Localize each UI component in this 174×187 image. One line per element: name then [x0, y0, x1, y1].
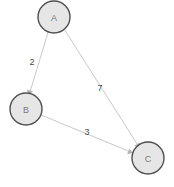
node-b[interactable]: B	[10, 93, 42, 125]
node-a-label: A	[51, 13, 57, 23]
edge-b-to-c-weight: 3	[84, 127, 89, 137]
edge-a-to-c-weight: 7	[97, 83, 102, 93]
node-b-label: B	[23, 105, 29, 115]
edge-layer: 2 7 3	[27, 29, 140, 154]
graph-diagram: 2 7 3 A B C	[0, 0, 174, 187]
edge-b-to-c: 3	[41, 115, 133, 154]
node-layer: A B C	[10, 1, 164, 174]
node-c[interactable]: C	[132, 142, 164, 174]
node-a[interactable]: A	[38, 1, 70, 33]
node-c-label: C	[145, 154, 152, 164]
edge-a-to-b-weight: 2	[29, 57, 34, 67]
edge-a-to-c: 7	[64, 29, 140, 148]
edge-a-to-b: 2	[27, 32, 49, 95]
